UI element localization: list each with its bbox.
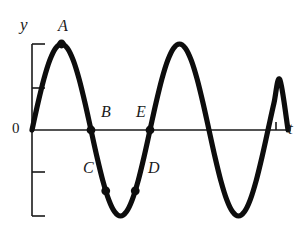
sine-wave-figure: y t 0 A B C D E [0, 0, 305, 245]
t-axis-label: t [288, 120, 293, 137]
data-point-c [101, 186, 110, 195]
y-axis-label: y [20, 16, 28, 33]
data-point-e [146, 126, 155, 135]
data-point-a [57, 40, 66, 49]
data-point-d [131, 186, 140, 195]
point-label-d: D [148, 160, 160, 176]
origin-label: 0 [12, 121, 20, 136]
data-point-b [87, 126, 96, 135]
point-label-a: A [58, 18, 68, 34]
plot-canvas [0, 0, 305, 245]
point-label-c: C [83, 160, 94, 176]
point-label-e: E [136, 104, 146, 120]
point-label-b: B [101, 104, 111, 120]
